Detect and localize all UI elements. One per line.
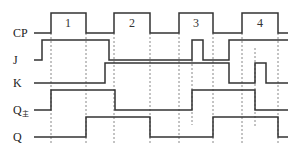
timing-diagram: CPJKQ主Q 1234 (0, 0, 303, 158)
waveform-Q (34, 117, 288, 137)
clock-pulse-number: 2 (129, 16, 135, 30)
signal-label-J: J (13, 53, 18, 67)
timing-diagram-canvas: CPJKQ主Q 1234 (0, 0, 303, 158)
waveform-CP (34, 13, 288, 33)
clock-pulse-number: 3 (193, 16, 199, 30)
signal-label-CP: CP (13, 26, 28, 40)
signal-label-subscript: 主 (22, 109, 29, 118)
signal-label-Q-master: Q主 (13, 103, 29, 118)
dashed-guide-lines (51, 33, 278, 145)
waveform-Q-master (34, 90, 288, 110)
signal-label-K: K (13, 76, 22, 90)
clock-pulse-number: 4 (257, 16, 263, 30)
waveform-K (34, 63, 288, 83)
waveform-J (34, 40, 288, 60)
signal-waveforms (34, 13, 288, 137)
clock-pulse-number: 1 (65, 16, 71, 30)
signal-labels: CPJKQ主Q (13, 26, 29, 144)
signal-label-Q: Q (13, 130, 22, 144)
clock-pulse-numbers: 1234 (65, 16, 263, 30)
